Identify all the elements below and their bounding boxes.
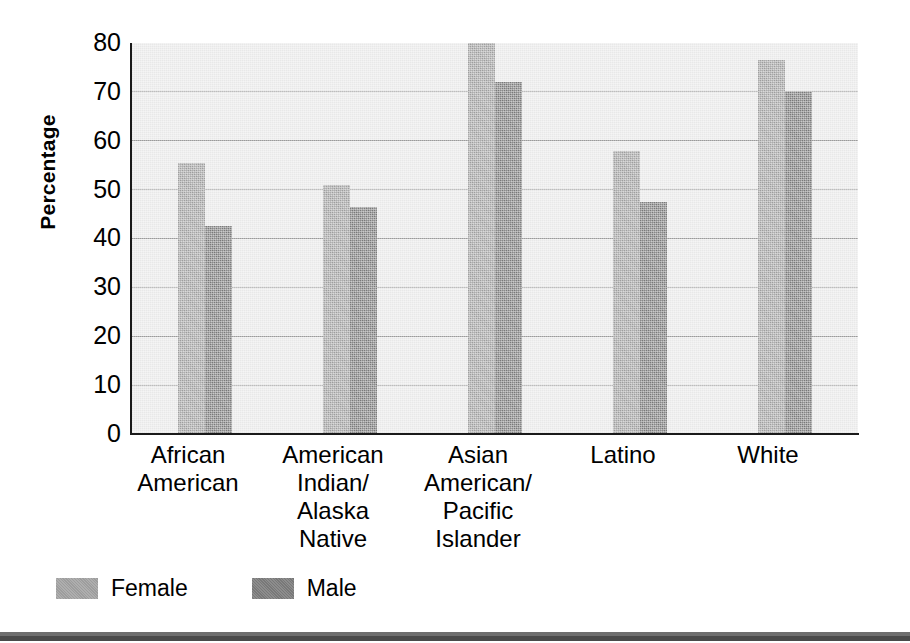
- category-label-line: Islander: [408, 525, 548, 553]
- y-tick-label: 30: [1, 274, 121, 299]
- bar-female[interactable]: [613, 151, 640, 434]
- y-tick-label: 40: [1, 225, 121, 250]
- legend-label: Male: [307, 575, 357, 602]
- legend-swatch-icon: [252, 578, 294, 599]
- category-label-line: American: [118, 469, 258, 497]
- category-label-line: Pacific: [408, 497, 548, 525]
- bar-male[interactable]: [640, 202, 667, 434]
- y-tick-label: 20: [1, 323, 121, 348]
- y-tick-label: 80: [1, 30, 121, 55]
- plot-area: [131, 43, 858, 434]
- bottom-rule: [0, 632, 910, 641]
- bar-male[interactable]: [350, 207, 377, 434]
- legend-label: Female: [111, 575, 188, 602]
- y-axis-tick-labels: 80 70 60 50 40 30 20 10 0: [0, 0, 121, 643]
- category-label-line: Alaska: [263, 497, 403, 525]
- bar-group: [458, 43, 567, 434]
- y-tick-label: 60: [1, 128, 121, 153]
- bar-group: [168, 43, 277, 434]
- bar-female[interactable]: [323, 185, 350, 434]
- bar-group: [603, 43, 712, 434]
- legend-swatch-icon: [56, 578, 98, 599]
- bar-group: [313, 43, 422, 434]
- bar-male[interactable]: [785, 92, 812, 434]
- category-label-white: White: [698, 441, 838, 469]
- category-label-asian-american-pacific-islander: Asian American/ Pacific Islander: [408, 441, 548, 553]
- category-label-latino: Latino: [553, 441, 693, 469]
- category-label-line: White: [698, 441, 838, 469]
- category-label-african-american: African American: [118, 441, 258, 497]
- x-axis-line: [130, 433, 859, 435]
- category-label-line: Native: [263, 525, 403, 553]
- category-label-american-indian-alaska-native: American Indian/ Alaska Native: [263, 441, 403, 553]
- bar-female[interactable]: [468, 43, 495, 434]
- bar-female[interactable]: [178, 163, 205, 434]
- category-label-line: Asian: [408, 441, 548, 469]
- y-tick-label: 10: [1, 372, 121, 397]
- category-label-line: Latino: [553, 441, 693, 469]
- bar-female[interactable]: [758, 60, 785, 434]
- bar-male[interactable]: [495, 82, 522, 434]
- category-label-line: American: [263, 441, 403, 469]
- y-tick-label: 0: [1, 421, 121, 446]
- y-tick-label: 50: [1, 177, 121, 202]
- legend: Female Male: [56, 575, 357, 602]
- legend-item-male[interactable]: Male: [252, 575, 357, 602]
- y-tick-label: 70: [1, 79, 121, 104]
- category-label-line: Indian/: [263, 469, 403, 497]
- bar-chart-figure: Percentage 80 70 60 50 40 30 20 10 0: [0, 0, 910, 643]
- category-label-line: American/: [408, 469, 548, 497]
- legend-item-female[interactable]: Female: [56, 575, 188, 602]
- bar-male[interactable]: [205, 226, 232, 434]
- category-label-line: African: [118, 441, 258, 469]
- bar-group: [748, 43, 857, 434]
- y-axis-line: [130, 43, 132, 435]
